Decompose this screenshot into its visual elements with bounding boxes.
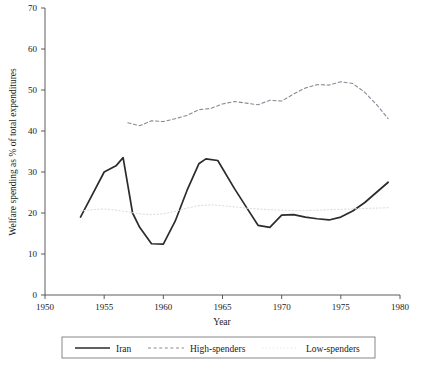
data-series-group xyxy=(81,82,389,244)
y-tick-label: 60 xyxy=(28,44,38,54)
x-axis-title: Year xyxy=(213,317,231,327)
series-line-high-spenders xyxy=(128,82,388,126)
legend-label-low-spenders: Low-spenders xyxy=(306,344,360,354)
y-tick-label: 70 xyxy=(28,3,38,13)
y-tick-label: 50 xyxy=(28,85,38,95)
series-line-low-spenders xyxy=(81,205,389,215)
y-axis-title: Welfare spending as % of total expenditu… xyxy=(8,68,18,236)
series-line-iran xyxy=(81,158,389,245)
legend-label-iran: Iran xyxy=(116,344,132,354)
x-tick-label: 1980 xyxy=(391,302,410,312)
x-axis-ticks: 1950195519601965197019751980 xyxy=(36,295,410,312)
y-axis-ticks: 010203040506070 xyxy=(28,3,45,300)
y-tick-label: 10 xyxy=(28,249,38,259)
x-tick-label: 1970 xyxy=(273,302,292,312)
x-tick-label: 1955 xyxy=(95,302,114,312)
chart-legend: Iran High-spenders Low-spenders xyxy=(62,337,375,358)
chart-figure: 010203040506070 195019551960196519701975… xyxy=(0,0,421,367)
legend-label-high-spenders: High-spenders xyxy=(190,344,246,354)
y-tick-label: 30 xyxy=(28,167,38,177)
x-tick-label: 1965 xyxy=(214,302,233,312)
x-tick-label: 1960 xyxy=(154,302,173,312)
y-tick-label: 0 xyxy=(33,290,38,300)
y-tick-label: 40 xyxy=(28,126,38,136)
welfare-spending-line-chart: 010203040506070 195019551960196519701975… xyxy=(0,0,421,367)
x-tick-label: 1950 xyxy=(36,302,55,312)
y-tick-label: 20 xyxy=(28,208,38,218)
x-tick-label: 1975 xyxy=(332,302,351,312)
